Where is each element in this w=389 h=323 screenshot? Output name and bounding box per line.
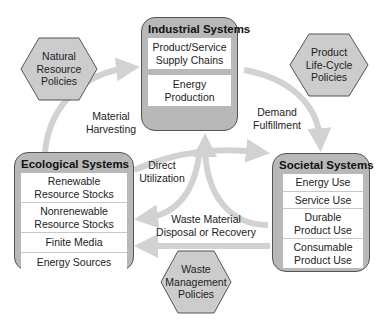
natural-resource-policies-hexagon: Natural Resource Policies bbox=[20, 37, 98, 101]
demand-fulfillment-label: Demand Fulfillment bbox=[242, 106, 312, 131]
product-life-cycle-policies-hexagon: Product Life-Cycle Policies bbox=[289, 33, 369, 97]
nonrenewable-stocks-cell: Nonrenewable Resource Stocks bbox=[21, 203, 127, 233]
societal-systems-box: Societal Systems Energy Use Service Use … bbox=[272, 153, 370, 272]
industrial-systems-title: Industrial Systems bbox=[148, 23, 231, 35]
energy-sources-cell: Energy Sources bbox=[21, 253, 127, 272]
waste-management-policies-hexagon: Waste Management Policies bbox=[160, 250, 232, 314]
energy-use-cell: Energy Use bbox=[283, 174, 363, 192]
energy-production-cell: Energy Production bbox=[148, 75, 231, 106]
direct-utilization-label: Direct Utilization bbox=[132, 159, 192, 184]
ecological-systems-title: Ecological Systems bbox=[21, 158, 127, 170]
societal-systems-title: Societal Systems bbox=[279, 159, 363, 171]
industrial-systems-box: Industrial Systems Product/Service Suppl… bbox=[141, 17, 238, 131]
service-use-cell: Service Use bbox=[283, 192, 363, 210]
consumable-product-use-cell: Consumable Product Use bbox=[283, 239, 363, 268]
ecological-systems-box: Ecological Systems Renewable Resource St… bbox=[14, 152, 134, 271]
finite-media-cell: Finite Media bbox=[21, 233, 127, 253]
waste-disposal-label: Waste Material Disposal or Recovery bbox=[146, 213, 266, 238]
durable-product-use-cell: Durable Product Use bbox=[283, 209, 363, 239]
material-harvesting-label: Material Harvesting bbox=[76, 110, 146, 135]
supply-chains-cell: Product/Service Supply Chains bbox=[148, 38, 231, 69]
renewable-stocks-cell: Renewable Resource Stocks bbox=[21, 173, 127, 203]
